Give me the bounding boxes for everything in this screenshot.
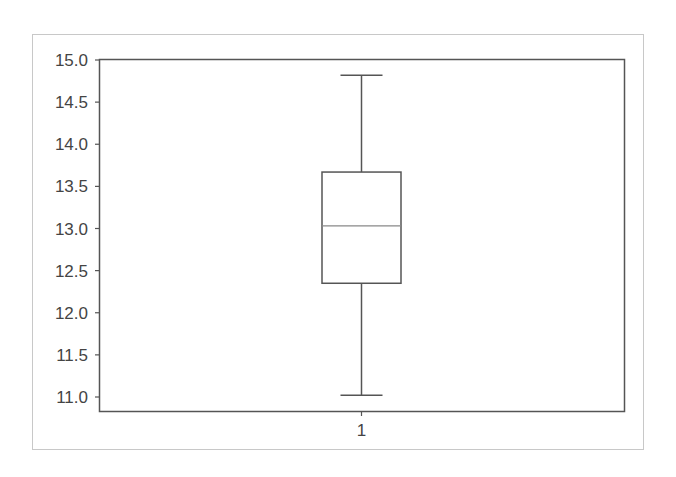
y-tick-label: 14.0 [55,135,88,154]
y-tick-label: 11.5 [56,346,88,365]
y-tick-label: 12.0 [55,304,88,323]
y-axis: 11.011.512.012.513.013.514.014.515.0 [55,51,100,407]
box-1 [322,75,401,395]
y-tick-label: 14.5 [55,93,88,112]
y-tick-label: 13.5 [55,177,88,196]
x-tick-label: 1 [357,421,366,440]
boxplot-chart: 11.011.512.012.513.013.514.014.515.0 1 [0,0,676,477]
box-series [322,75,401,395]
y-tick-label: 15.0 [55,51,88,70]
x-axis: 1 [357,412,366,441]
y-tick-label: 12.5 [55,262,88,281]
y-tick-label: 13.0 [55,220,88,239]
y-tick-label: 11.0 [56,388,88,407]
iqr-box [322,172,401,283]
